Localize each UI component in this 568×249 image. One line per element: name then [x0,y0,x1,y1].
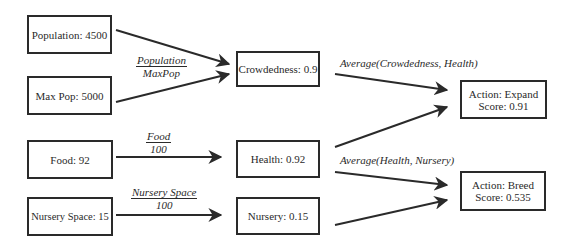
node-crowdedness: Crowdedness: 0.9 [236,51,320,87]
node-food-label: Food: 92 [50,154,89,166]
node-max-pop-label: Max Pop: 5000 [36,90,104,102]
nursery-formula: Nursery Space 100 [131,186,197,211]
health-formula-numerator: Food [146,130,171,143]
node-action-expand-action: Action: Expand [469,88,538,100]
edge-health-to-expand [335,107,447,147]
node-population: Population: 4500 [27,15,112,54]
node-nursery: Nursery: 0.15 [236,197,320,235]
node-food: Food: 92 [27,140,113,179]
crowdedness-formula-numerator: Population [136,54,187,67]
nursery-formula-numerator: Nursery Space [131,186,197,199]
edge-health-to-breed [335,172,447,185]
node-population-label: Population: 4500 [32,29,107,41]
edge-nursery-to-breed [335,200,447,225]
node-action-breed-action: Action: Breed [472,179,534,191]
node-crowdedness-label: Crowdedness: 0.9 [239,63,318,75]
node-action-breed-score: Score: 0.535 [475,191,531,203]
node-health: Health: 0.92 [236,140,320,178]
node-action-breed: Action: Breed Score: 0.535 [460,171,546,211]
node-max-pop: Max Pop: 5000 [27,76,112,115]
node-nursery-label: Nursery: 0.15 [248,210,309,222]
expand-formula: Average(Crowdedness, Health) [340,57,478,69]
node-nursery-space: Nursery Space: 15 [27,197,113,236]
node-action-expand-score: Score: 0.91 [478,100,528,112]
node-nursery-space-label: Nursery Space: 15 [31,211,109,223]
breed-formula: Average(Health, Nursery) [340,154,454,166]
edge-crowdedness-to-expand [335,74,447,90]
health-formula: Food 100 [146,130,171,155]
node-health-label: Health: 0.92 [251,153,305,165]
node-action-expand: Action: Expand Score: 0.91 [460,80,547,119]
health-formula-denominator: 100 [150,143,167,155]
crowdedness-formula: Population MaxPop [136,54,187,79]
nursery-formula-denominator: 100 [156,199,173,211]
crowdedness-formula-denominator: MaxPop [143,67,180,79]
